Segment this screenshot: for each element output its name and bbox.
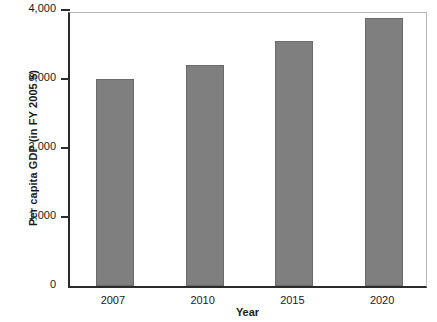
bar bbox=[186, 65, 224, 286]
y-axis-tick-label: 0 bbox=[50, 278, 56, 290]
y-axis-tick-label: 3,000 bbox=[28, 71, 56, 83]
y-axis-tick-mark bbox=[61, 78, 70, 80]
bar-chart: Per capita GDP (in FY 2005 $) 01,0002,00… bbox=[0, 0, 437, 322]
bar bbox=[275, 41, 313, 286]
bar bbox=[365, 18, 403, 286]
x-axis-tick-label: 2007 bbox=[83, 294, 143, 306]
y-axis-tick-mark bbox=[61, 216, 70, 218]
y-axis-tick-mark bbox=[61, 147, 70, 149]
bars-container bbox=[70, 13, 426, 286]
y-axis-tick-label: 1,000 bbox=[28, 209, 56, 221]
x-axis-tick-label: 2020 bbox=[352, 294, 412, 306]
bar bbox=[96, 79, 134, 286]
x-axis-tick-label: 2015 bbox=[262, 294, 322, 306]
x-axis-title: Year bbox=[68, 306, 427, 318]
plot-area: 01,0002,0003,0004,000 bbox=[68, 12, 427, 288]
y-axis-tick-label: 4,000 bbox=[28, 2, 56, 14]
y-axis-tick-label: 2,000 bbox=[28, 140, 56, 152]
y-axis-tick-mark bbox=[61, 9, 70, 11]
x-axis-tick-label: 2010 bbox=[173, 294, 233, 306]
